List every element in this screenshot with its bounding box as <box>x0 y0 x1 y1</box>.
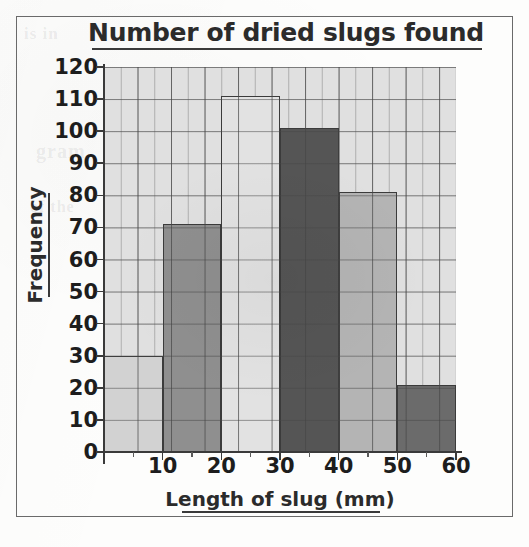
y-axis-tick-mark <box>96 291 104 293</box>
x-axis-minor-tick-mark <box>191 452 193 457</box>
y-axis-tick-label: 30 <box>42 346 98 367</box>
y-axis-tick-mark <box>96 323 104 325</box>
y-axis-tick-mark <box>96 259 104 261</box>
x-axis-minor-tick-mark <box>367 452 369 457</box>
y-axis-tick-mark <box>96 387 104 389</box>
x-axis-tick-mark <box>162 452 164 460</box>
x-axis-tick-mark <box>338 452 340 460</box>
y-axis-tick-mark <box>96 419 104 421</box>
y-axis-tick-mark <box>96 66 104 68</box>
bar <box>280 128 339 452</box>
y-axis-tick-label: 100 <box>42 121 98 142</box>
y-axis-title-wrap: Frequency <box>23 145 53 345</box>
y-axis-tick-label: 10 <box>42 410 98 431</box>
bar <box>221 96 280 452</box>
x-axis-minor-tick-mark <box>250 452 252 457</box>
x-axis-minor-tick-mark <box>309 452 311 457</box>
x-axis-tick-mark <box>455 452 457 460</box>
chart-title-underline <box>92 48 482 50</box>
y-axis-tick-mark <box>96 162 104 164</box>
y-axis-line <box>103 64 105 464</box>
y-axis-title: Frequency <box>23 145 47 345</box>
bar <box>104 356 163 452</box>
y-axis-title-underline <box>48 193 50 297</box>
y-axis-tick-label: 120 <box>42 57 98 78</box>
plot-area <box>104 67 456 452</box>
y-axis-tick-label: 0 <box>42 442 98 463</box>
y-axis-tick-mark <box>96 227 104 229</box>
y-axis-tick-mark <box>96 355 104 357</box>
bar <box>339 192 398 452</box>
y-axis-tick-label: 110 <box>42 89 98 110</box>
bar <box>163 224 222 452</box>
x-axis-tick-mark <box>221 452 223 460</box>
y-axis-tick-mark <box>96 130 104 132</box>
x-axis-minor-tick-mark <box>426 452 428 457</box>
x-axis-title-underline <box>182 511 380 513</box>
x-axis-tick-mark <box>103 452 105 460</box>
x-axis-minor-tick-mark <box>133 452 135 457</box>
scanned-page: is in gram of the Number of dried slugs … <box>0 0 529 547</box>
x-axis-tick-mark <box>397 452 399 460</box>
y-axis-tick-label: 20 <box>42 378 98 399</box>
x-axis-title: Length of slug (mm) <box>104 487 456 511</box>
y-axis-tick-mark <box>96 98 104 100</box>
y-axis-tick-mark <box>96 195 104 197</box>
bar <box>397 385 456 452</box>
x-axis-tick-mark <box>279 452 281 460</box>
chart-title: Number of dried slugs found <box>88 18 484 47</box>
